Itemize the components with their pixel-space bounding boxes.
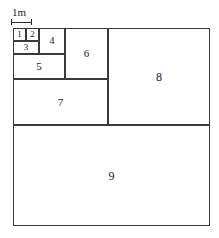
square-6-label: 6 (84, 48, 90, 59)
scale-bar-tick-left (11, 19, 12, 25)
scale-label: 1m (11, 7, 32, 18)
scale-indicator: 1m (11, 7, 32, 25)
scale-bar-tick-right (31, 19, 32, 25)
square-4: 4 (39, 28, 65, 54)
square-8: 8 (108, 28, 210, 125)
scale-bar (11, 19, 32, 25)
square-7: 7 (13, 79, 108, 125)
square-5: 5 (13, 54, 65, 79)
square-9: 9 (13, 125, 210, 226)
square-6: 6 (65, 28, 108, 79)
square-7-label: 7 (58, 97, 64, 108)
square-3-label: 3 (24, 43, 29, 52)
square-2: 2 (26, 28, 39, 41)
square-1: 1 (13, 28, 26, 41)
square-8-label: 8 (156, 71, 162, 83)
square-5-label: 5 (36, 61, 42, 72)
square-1-label: 1 (17, 30, 22, 39)
square-3: 3 (13, 41, 39, 54)
diagram-canvas: 1m 1 2 3 4 5 6 7 8 9 (0, 0, 219, 238)
square-4-label: 4 (50, 36, 55, 46)
square-2-label: 2 (30, 30, 35, 39)
scale-bar-rule (11, 22, 32, 23)
square-9-label: 9 (109, 170, 115, 182)
